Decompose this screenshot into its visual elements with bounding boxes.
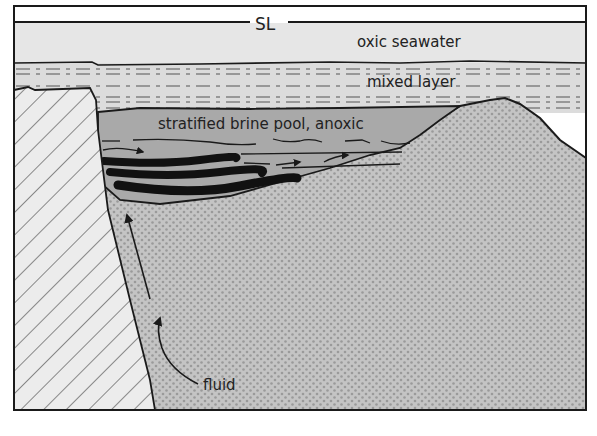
oxic-seawater-label: oxic seawater xyxy=(357,33,462,51)
fluid-label: fluid xyxy=(203,376,236,394)
mixed-layer-label: mixed layer xyxy=(367,73,456,91)
sea-level-label: SL xyxy=(255,14,276,34)
brine-pool-label: stratified brine pool, anoxic xyxy=(158,115,364,133)
air-band xyxy=(14,6,586,23)
brine-pool-diagram: SL oxic seawater mixed layer stratified … xyxy=(0,0,597,436)
oxic-seawater-layer xyxy=(14,23,586,64)
